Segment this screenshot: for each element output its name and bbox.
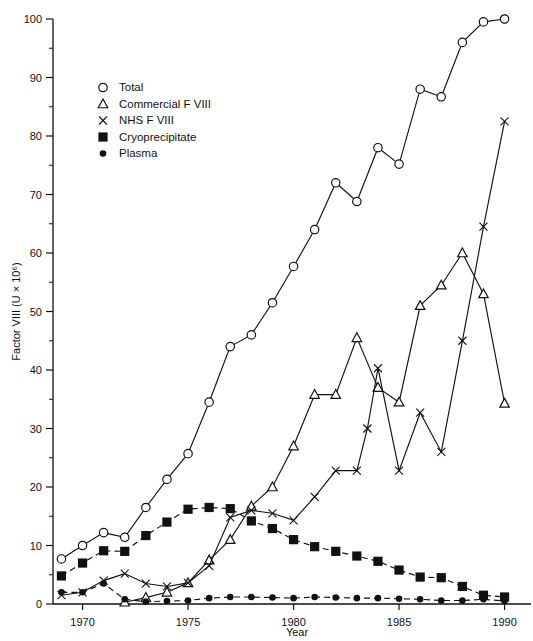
y-axis-title: Factor VIII (U × 10⁶) <box>10 262 22 360</box>
data-point <box>396 595 403 602</box>
data-point <box>269 594 276 601</box>
data-point <box>99 546 108 555</box>
chart-svg: 0102030405060708090100197019751980198519… <box>0 0 533 641</box>
data-point <box>99 528 107 536</box>
data-point <box>163 475 171 483</box>
data-point <box>458 38 466 46</box>
data-point <box>141 531 150 540</box>
chart-figure: 0102030405060708090100197019751980198519… <box>0 0 533 641</box>
data-point <box>79 589 86 596</box>
data-point <box>78 558 87 567</box>
y-tick-label: 30 <box>30 423 42 435</box>
data-point <box>458 582 467 591</box>
data-point <box>354 595 361 602</box>
x-tick-label: 1990 <box>492 616 516 628</box>
data-point <box>247 516 256 525</box>
x-tick-label: 1985 <box>387 616 411 628</box>
data-point <box>480 596 487 603</box>
y-tick-label: 90 <box>30 72 42 84</box>
y-tick-label: 50 <box>30 306 42 318</box>
data-point <box>375 595 382 602</box>
data-point <box>373 557 382 566</box>
x-tick-label: 1975 <box>176 616 200 628</box>
y-tick-label: 70 <box>30 189 42 201</box>
y-tick-label: 20 <box>30 481 42 493</box>
y-tick-label: 10 <box>30 540 42 552</box>
data-point <box>417 596 424 603</box>
data-point <box>205 398 213 406</box>
data-point <box>57 571 66 580</box>
data-point <box>416 572 425 581</box>
legend-label: NHS F VIII <box>119 114 174 126</box>
data-point <box>121 533 129 541</box>
legend-label: Cryoprecipitate <box>119 131 196 143</box>
data-point <box>374 144 382 152</box>
data-point <box>120 547 129 556</box>
data-point <box>395 160 403 168</box>
y-tick-label: 60 <box>30 247 42 259</box>
data-point <box>162 518 171 527</box>
data-point <box>332 594 339 601</box>
data-point <box>331 547 340 556</box>
data-point <box>184 449 192 457</box>
data-point <box>57 555 65 563</box>
data-point <box>353 197 361 205</box>
data-point <box>227 594 234 601</box>
x-tick-label: 1970 <box>70 616 94 628</box>
data-point <box>500 15 508 23</box>
legend-marker-open-circle <box>99 83 107 91</box>
y-tick-label: 100 <box>24 13 42 25</box>
data-point <box>268 299 276 307</box>
data-point <box>479 18 487 26</box>
data-point <box>142 503 150 511</box>
y-tick-label: 40 <box>30 364 42 376</box>
data-point <box>310 225 318 233</box>
data-point <box>100 580 107 587</box>
data-point <box>416 85 424 93</box>
legend-label: Plasma <box>119 147 158 159</box>
legend-label: Total <box>119 81 143 93</box>
data-point <box>205 503 214 512</box>
y-tick-label: 80 <box>30 130 42 142</box>
data-point <box>438 597 445 604</box>
data-point <box>311 594 318 601</box>
data-point <box>268 524 277 533</box>
x-axis-title: Year <box>286 626 309 638</box>
data-point <box>226 342 234 350</box>
data-point <box>289 262 297 270</box>
data-point <box>247 331 255 339</box>
data-point <box>459 597 466 604</box>
legend-label: Commercial F VIII <box>119 98 211 110</box>
data-point <box>352 551 361 560</box>
data-point <box>437 573 446 582</box>
data-point <box>226 504 235 513</box>
y-tick-label: 0 <box>36 598 42 610</box>
data-point <box>394 565 403 574</box>
data-point <box>183 505 192 514</box>
legend-marker-filled-square <box>98 132 107 141</box>
data-point <box>206 595 213 602</box>
data-point <box>289 535 298 544</box>
data-point <box>185 597 192 604</box>
data-point <box>332 179 340 187</box>
data-point <box>501 598 508 605</box>
data-point <box>290 595 297 602</box>
data-point <box>121 596 128 603</box>
data-point <box>58 589 65 596</box>
data-point <box>78 541 86 549</box>
data-point <box>437 93 445 101</box>
data-point <box>248 594 255 601</box>
data-point <box>164 598 171 605</box>
data-point <box>310 542 319 551</box>
legend-marker-filled-circle <box>100 150 107 157</box>
data-point <box>143 598 150 605</box>
